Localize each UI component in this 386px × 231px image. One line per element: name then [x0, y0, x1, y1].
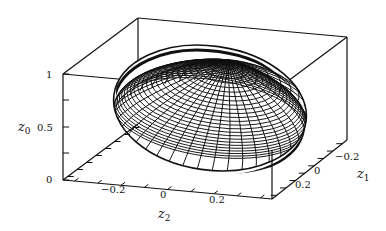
3d-surface-plot: 1 0.5 0 z0 −0.2 0 0.2 z2 −0.2 0 0.2 z1	[0, 0, 386, 231]
z0-axis-label: z0	[17, 119, 31, 136]
z2-tick-neg02: −0.2	[101, 184, 125, 195]
z0-tick-05: 0.5	[37, 122, 53, 133]
z1-axis-label: z1	[356, 166, 370, 183]
z2-axis-label: z2	[157, 206, 171, 223]
z1-tick-02: 0.2	[295, 179, 311, 190]
z2-tick-0: 0	[160, 189, 166, 200]
z1-tick-neg02: −0.2	[335, 151, 359, 162]
z0-tick-1: 1	[46, 69, 52, 80]
z0-tick-0: 0	[46, 174, 52, 185]
z2-tick-02: 0.2	[209, 194, 225, 205]
z1-tick-0: 0	[314, 165, 320, 176]
ellipsoid-surface	[105, 33, 314, 188]
